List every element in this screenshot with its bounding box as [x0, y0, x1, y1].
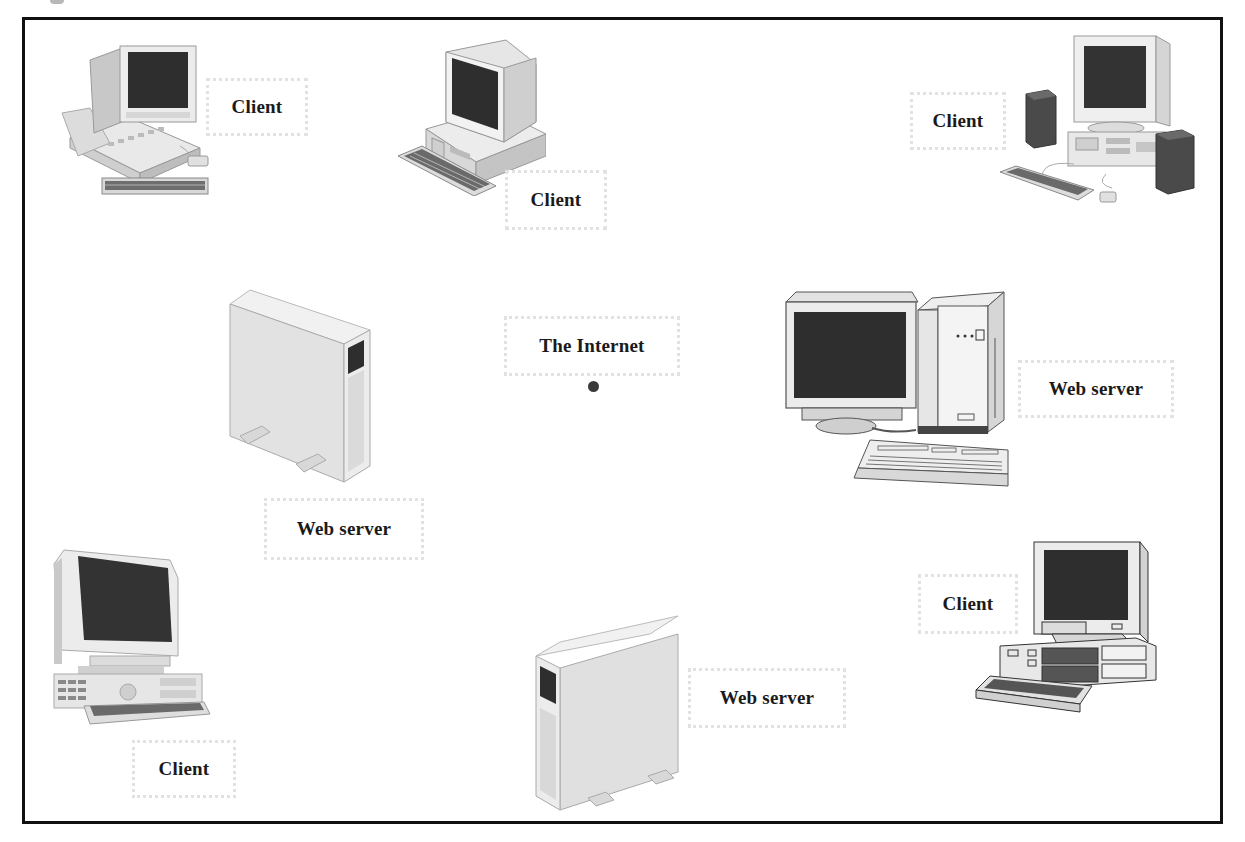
client-label-text: Client	[159, 758, 210, 780]
desktop-computer-speakers-icon	[996, 34, 1200, 210]
web-server-label: Web server	[1018, 360, 1174, 418]
client-label-text: Client	[232, 96, 283, 118]
client-label-text: Client	[531, 189, 582, 211]
desktop-computer-icon	[60, 38, 210, 200]
desktop-computer-icon	[50, 544, 212, 728]
web-server-label: Web server	[264, 498, 424, 560]
web-server-label-text: Web server	[1049, 378, 1143, 400]
desktop-computer-icon	[972, 538, 1158, 714]
client-label: Client	[132, 740, 236, 798]
workstation-server-icon	[782, 288, 1014, 488]
internet-label: The Internet	[504, 316, 680, 376]
cropped-heading-fragment	[50, 0, 64, 4]
internet-label-text: The Internet	[539, 335, 644, 357]
web-server-label-text: Web server	[297, 518, 391, 540]
client-label: Client	[206, 78, 308, 136]
client-label: Client	[505, 170, 607, 230]
client-label-text: Client	[933, 110, 984, 132]
hub-dot-icon	[588, 381, 599, 392]
tower-server-icon	[532, 612, 680, 812]
tower-server-icon	[226, 286, 372, 486]
client-label: Client	[910, 92, 1006, 150]
web-server-label: Web server	[688, 668, 846, 728]
web-server-label-text: Web server	[720, 687, 814, 709]
